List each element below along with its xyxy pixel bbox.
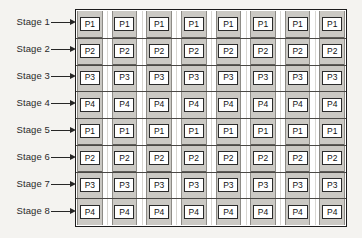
process-cell: P2: [113, 38, 137, 65]
process-box: P4: [253, 98, 273, 112]
process-cell: P2: [320, 145, 344, 172]
stage-label-text: Stage 4: [17, 98, 50, 108]
process-cell: P3: [320, 172, 344, 199]
process-cell: P3: [113, 65, 137, 92]
process-box: P1: [149, 124, 169, 138]
process-column: P1P2P3P4P1P2P3P4: [146, 11, 172, 225]
stage-label-row: Stage 5: [0, 117, 76, 143]
process-cell: P4: [78, 92, 102, 119]
right-arrow-icon: [51, 72, 76, 81]
column-separator: [172, 11, 181, 225]
diagram-canvas: Stage 1 Stage 2 Stage 3 Stage 4 Stage 5 …: [0, 0, 362, 238]
process-cell: P2: [320, 38, 344, 65]
process-box: P2: [218, 151, 238, 165]
process-box: P3: [80, 71, 100, 85]
process-box: P4: [288, 98, 308, 112]
process-cell: P2: [217, 145, 241, 172]
process-box: P3: [322, 71, 342, 85]
process-cell: P1: [217, 119, 241, 146]
process-box: P1: [114, 17, 134, 31]
process-box: P4: [322, 98, 342, 112]
right-arrow-icon: [51, 180, 76, 189]
process-box: P1: [184, 124, 204, 138]
process-column: P1P2P3P4P1P2P3P4: [181, 11, 207, 225]
stage-label-row: Stage 3: [0, 63, 76, 89]
process-cell: P3: [182, 65, 206, 92]
stage-label-row: Stage 2: [0, 36, 76, 62]
process-box: P3: [253, 71, 273, 85]
column-separator: [137, 11, 146, 225]
process-cell: P4: [217, 199, 241, 225]
stage-label-text: Stage 2: [17, 44, 50, 54]
process-cell: P3: [147, 65, 171, 92]
process-box: P2: [149, 151, 169, 165]
process-cell: P1: [286, 119, 310, 146]
process-cell: P4: [320, 92, 344, 119]
column-separator: [241, 11, 250, 225]
process-cell: P1: [78, 119, 102, 146]
stage-label-row: Stage 7: [0, 171, 76, 197]
process-box: P3: [288, 71, 308, 85]
right-arrow-icon: [51, 45, 76, 54]
process-box: P4: [218, 98, 238, 112]
process-box: P4: [253, 205, 273, 219]
column-separator: [276, 11, 285, 225]
process-box: P2: [288, 44, 308, 58]
process-cell: P2: [286, 38, 310, 65]
stage-label-text: Stage 6: [17, 152, 50, 162]
stage-label-row: Stage 4: [0, 90, 76, 116]
process-column: P1P2P3P4P1P2P3P4: [250, 11, 276, 225]
process-cell: P1: [251, 119, 275, 146]
process-grid: P1P2P3P4P1P2P3P4P1P2P3P4P1P2P3P4P1P2P3P4…: [75, 9, 347, 227]
process-box: P4: [114, 205, 134, 219]
process-cell: P3: [78, 65, 102, 92]
process-cell: P3: [320, 65, 344, 92]
process-cell: P3: [251, 65, 275, 92]
process-box: P2: [288, 151, 308, 165]
process-cell: P2: [217, 38, 241, 65]
process-cell: P4: [113, 199, 137, 225]
process-cell: P1: [182, 119, 206, 146]
process-cell: P1: [320, 11, 344, 38]
process-cell: P4: [286, 199, 310, 225]
process-box: P2: [149, 44, 169, 58]
process-box: P1: [218, 17, 238, 31]
process-cell: P1: [147, 11, 171, 38]
stage-label-column: Stage 1 Stage 2 Stage 3 Stage 4 Stage 5 …: [0, 0, 76, 238]
process-box: P4: [184, 205, 204, 219]
process-box: P1: [322, 17, 342, 31]
process-cell: P1: [217, 11, 241, 38]
process-box: P2: [80, 151, 100, 165]
process-box: P1: [184, 17, 204, 31]
process-cell: P3: [286, 172, 310, 199]
process-column: P1P2P3P4P1P2P3P4: [285, 11, 311, 225]
column-separator: [310, 11, 319, 225]
process-box: P3: [184, 71, 204, 85]
stage-label-text: Stage 7: [17, 179, 50, 189]
process-cell: P4: [182, 199, 206, 225]
process-cell: P3: [182, 172, 206, 199]
process-box: P4: [114, 98, 134, 112]
stage-label-row: Stage 6: [0, 144, 76, 170]
process-cell: P1: [113, 119, 137, 146]
process-box: P3: [114, 178, 134, 192]
process-box: P3: [253, 178, 273, 192]
process-box: P2: [80, 44, 100, 58]
right-arrow-icon: [51, 207, 76, 216]
process-box: P2: [253, 44, 273, 58]
process-cell: P3: [286, 65, 310, 92]
process-box: P1: [288, 124, 308, 138]
process-cell: P1: [182, 11, 206, 38]
column-separator: [207, 11, 216, 225]
process-box: P3: [184, 178, 204, 192]
process-cell: P3: [217, 65, 241, 92]
stage-label-row: Stage 8: [0, 198, 76, 224]
process-cell: P2: [78, 145, 102, 172]
process-cell: P4: [147, 199, 171, 225]
process-box: P1: [149, 17, 169, 31]
process-box: P3: [149, 178, 169, 192]
process-cell: P1: [147, 119, 171, 146]
process-box: P4: [322, 205, 342, 219]
process-box: P3: [149, 71, 169, 85]
process-cell: P1: [113, 11, 137, 38]
